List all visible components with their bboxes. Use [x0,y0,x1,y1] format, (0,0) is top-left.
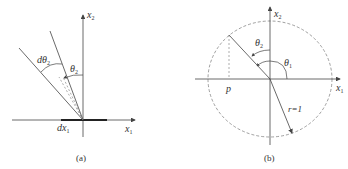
caption-a: (a) [76,153,86,163]
dx1-label: dx1 [57,122,69,134]
theta2-label: θ2 [255,37,263,49]
dtheta-label: dθ2 [37,54,50,66]
panel-b: x2 x1 θ2 θ1 p r=1 (b) [195,7,343,163]
dashed-ray-2 [63,77,83,120]
radius-label: r=1 [288,104,302,114]
x1-label: x1 [124,123,132,135]
direction-line [229,35,270,79]
caption-b: (b) [264,153,275,163]
theta1-label: θ1 [284,57,292,69]
figure-canvas: x2 x1 dθ2 θ2 dx1 (a) x2 x1 θ2 θ1 p r=1 (… [0,0,348,169]
inner-ray [50,31,83,120]
x1-label: x1 [335,82,343,94]
theta2-arc [252,50,270,56]
p-label: p [225,83,231,94]
outer-ray [19,48,83,120]
x2-label: x2 [86,9,94,21]
x2-label: x2 [273,8,281,20]
theta2-label: θ2 [70,63,78,75]
panel-a: x2 x1 dθ2 θ2 dx1 (a) [12,9,135,163]
dashed-ray-1 [59,77,83,120]
